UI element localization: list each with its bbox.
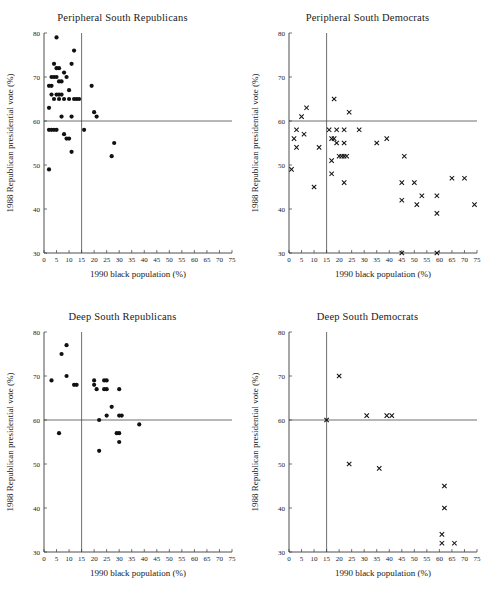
figure-panel-grid: Peripheral South Republicans 05101520253…	[0, 0, 490, 598]
svg-text:35: 35	[128, 555, 136, 563]
svg-text:15: 15	[323, 256, 331, 264]
svg-text:60: 60	[278, 118, 286, 126]
svg-text:70: 70	[216, 256, 224, 264]
svg-text:40: 40	[141, 256, 149, 264]
svg-text:35: 35	[373, 256, 381, 264]
svg-text:70: 70	[461, 256, 469, 264]
svg-text:35: 35	[128, 256, 136, 264]
scatter-svg-0: 0510152025303540455055606570753040506070…	[0, 0, 245, 299]
svg-text:5: 5	[300, 555, 304, 563]
svg-text:80: 80	[33, 30, 41, 38]
svg-text:25: 25	[348, 256, 356, 264]
svg-text:40: 40	[278, 505, 286, 513]
svg-text:40: 40	[278, 206, 286, 214]
svg-text:20: 20	[91, 256, 99, 264]
plot-area: 0510152025303540455055606570753040506070…	[0, 299, 245, 598]
svg-text:70: 70	[33, 373, 41, 381]
svg-text:30: 30	[278, 250, 286, 258]
svg-text:1990 black population (%): 1990 black population (%)	[90, 568, 186, 578]
svg-text:30: 30	[278, 549, 286, 557]
svg-text:0: 0	[42, 555, 46, 563]
svg-text:40: 40	[33, 505, 41, 513]
svg-text:50: 50	[166, 555, 174, 563]
svg-text:60: 60	[278, 417, 286, 425]
svg-text:1990 black population (%): 1990 black population (%)	[335, 568, 431, 578]
scatter-svg-2: 0510152025303540455055606570753040506070…	[0, 299, 245, 598]
svg-text:50: 50	[33, 162, 41, 170]
svg-text:55: 55	[178, 555, 186, 563]
svg-text:40: 40	[386, 256, 394, 264]
svg-text:30: 30	[361, 555, 369, 563]
svg-text:25: 25	[348, 555, 356, 563]
svg-text:75: 75	[229, 256, 237, 264]
svg-text:40: 40	[386, 555, 394, 563]
svg-text:5: 5	[55, 555, 59, 563]
svg-text:50: 50	[166, 256, 174, 264]
svg-text:30: 30	[33, 549, 41, 557]
svg-text:70: 70	[216, 555, 224, 563]
svg-text:15: 15	[78, 256, 86, 264]
svg-text:45: 45	[398, 555, 406, 563]
svg-text:60: 60	[191, 555, 199, 563]
svg-text:30: 30	[33, 250, 41, 258]
svg-text:60: 60	[436, 555, 444, 563]
svg-text:0: 0	[287, 555, 291, 563]
svg-text:25: 25	[103, 256, 111, 264]
svg-text:30: 30	[116, 555, 124, 563]
panel-peripheral-south-democrats: Peripheral South Democrats 0510152025303…	[245, 0, 490, 299]
svg-text:1988 Republican presidential v: 1988 Republican presidential vote (%)	[250, 373, 260, 512]
svg-text:60: 60	[33, 118, 41, 126]
svg-text:75: 75	[229, 555, 237, 563]
plot-area: 0510152025303540455055606570753040506070…	[245, 299, 490, 598]
data-points	[49, 343, 141, 453]
svg-text:75: 75	[474, 555, 482, 563]
svg-text:35: 35	[373, 555, 381, 563]
svg-text:1988 Republican presidential v: 1988 Republican presidential vote (%)	[5, 74, 15, 213]
plot-area: 0510152025303540455055606570753040506070…	[0, 0, 245, 299]
svg-text:55: 55	[423, 256, 431, 264]
panel-deep-south-democrats: Deep South Democrats 0510152025303540455…	[245, 299, 490, 598]
svg-text:30: 30	[361, 256, 369, 264]
svg-text:80: 80	[278, 30, 286, 38]
svg-text:40: 40	[141, 555, 149, 563]
svg-text:70: 70	[278, 373, 286, 381]
svg-text:0: 0	[287, 256, 291, 264]
svg-text:45: 45	[153, 555, 161, 563]
svg-text:60: 60	[33, 417, 41, 425]
svg-text:60: 60	[191, 256, 199, 264]
svg-text:75: 75	[474, 256, 482, 264]
svg-text:15: 15	[323, 555, 331, 563]
svg-text:0: 0	[42, 256, 46, 264]
svg-text:50: 50	[278, 461, 286, 469]
data-points	[324, 374, 456, 546]
svg-text:50: 50	[33, 461, 41, 469]
svg-text:10: 10	[66, 256, 74, 264]
svg-text:20: 20	[336, 555, 344, 563]
svg-text:70: 70	[33, 74, 41, 82]
svg-text:40: 40	[33, 206, 41, 214]
svg-text:80: 80	[278, 329, 286, 337]
svg-text:1990 black population (%): 1990 black population (%)	[90, 269, 186, 279]
svg-text:20: 20	[91, 555, 99, 563]
data-points	[289, 97, 476, 255]
svg-text:10: 10	[311, 256, 319, 264]
svg-text:65: 65	[448, 555, 456, 563]
svg-text:1990 black population (%): 1990 black population (%)	[335, 269, 431, 279]
svg-text:20: 20	[336, 256, 344, 264]
svg-text:30: 30	[116, 256, 124, 264]
scatter-svg-1: 0510152025303540455055606570753040506070…	[245, 0, 490, 299]
svg-text:70: 70	[461, 555, 469, 563]
svg-text:60: 60	[436, 256, 444, 264]
panel-deep-south-republicans: Deep South Republicans 05101520253035404…	[0, 299, 245, 598]
svg-text:45: 45	[398, 256, 406, 264]
svg-text:50: 50	[411, 555, 419, 563]
panel-peripheral-south-republicans: Peripheral South Republicans 05101520253…	[0, 0, 245, 299]
svg-text:10: 10	[311, 555, 319, 563]
plot-area: 0510152025303540455055606570753040506070…	[245, 0, 490, 299]
svg-text:55: 55	[178, 256, 186, 264]
svg-text:5: 5	[55, 256, 59, 264]
svg-text:1988 Republican presidential v: 1988 Republican presidential vote (%)	[5, 373, 15, 512]
svg-text:65: 65	[203, 555, 211, 563]
svg-text:45: 45	[153, 256, 161, 264]
svg-text:50: 50	[278, 162, 286, 170]
